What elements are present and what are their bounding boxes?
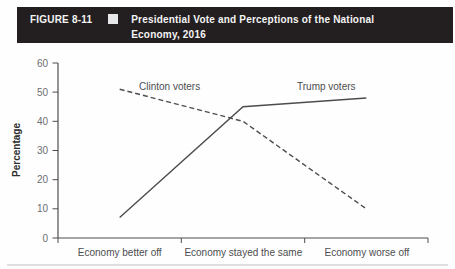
y-tick-30: 30 [37, 145, 49, 156]
x-category-stayed-same: Economy stayed the same [184, 247, 302, 258]
line-chart: 60 50 40 30 20 10 0 Percentage Economy b… [0, 0, 455, 269]
y-axis-ticks [53, 63, 59, 238]
y-tick-0: 0 [42, 233, 48, 244]
y-tick-40: 40 [37, 116, 49, 127]
clinton-voters-label: Clinton voters [139, 81, 200, 92]
x-axis-ticks [58, 238, 428, 243]
y-tick-10: 10 [37, 203, 49, 214]
x-category-worse-off: Economy worse off [324, 247, 409, 258]
trump-voters-label: Trump voters [297, 81, 356, 92]
trump-voters-line [120, 98, 367, 218]
y-tick-20: 20 [37, 174, 49, 185]
y-tick-50: 50 [37, 87, 49, 98]
figure-page: FIGURE 8-11 Presidential Vote and Percep… [0, 0, 455, 269]
x-category-better-off: Economy better off [78, 247, 162, 258]
y-tick-60: 60 [37, 58, 49, 69]
y-axis-title: Percentage [11, 123, 22, 177]
